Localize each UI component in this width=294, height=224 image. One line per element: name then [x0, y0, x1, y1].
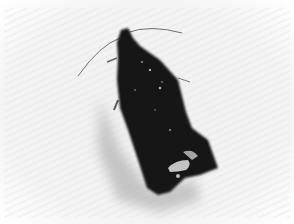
moth-illustration: [0, 0, 294, 224]
moth-photo: [0, 0, 294, 224]
